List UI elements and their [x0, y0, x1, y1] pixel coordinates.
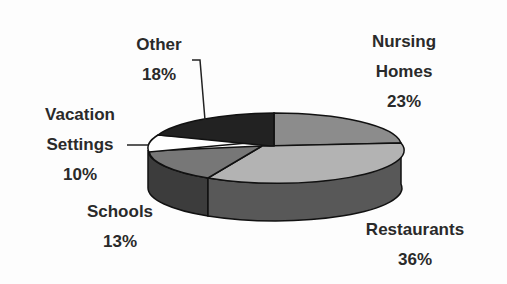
label-vacation-settings: Vacation Settings 10% — [32, 100, 128, 190]
label-schools-name: Schools — [75, 197, 165, 227]
label-vacation-name2: Settings — [32, 130, 128, 160]
label-nursing-homes-name1: Nursing — [356, 27, 452, 57]
label-other-name: Other — [124, 30, 194, 60]
label-vacation-value: 10% — [32, 160, 128, 190]
label-schools: Schools 13% — [75, 197, 165, 257]
slice-nursing-homes — [274, 113, 401, 146]
label-other: Other 18% — [124, 30, 194, 90]
label-restaurants: Restaurants 36% — [345, 215, 485, 275]
label-nursing-homes-value: 23% — [356, 87, 452, 117]
label-nursing-homes-name2: Homes — [356, 57, 452, 87]
label-other-value: 18% — [124, 60, 194, 90]
label-schools-value: 13% — [75, 227, 165, 257]
label-restaurants-name: Restaurants — [345, 215, 485, 245]
label-nursing-homes: Nursing Homes 23% — [356, 27, 452, 117]
label-vacation-name1: Vacation — [32, 100, 128, 130]
label-restaurants-value: 36% — [345, 245, 485, 275]
